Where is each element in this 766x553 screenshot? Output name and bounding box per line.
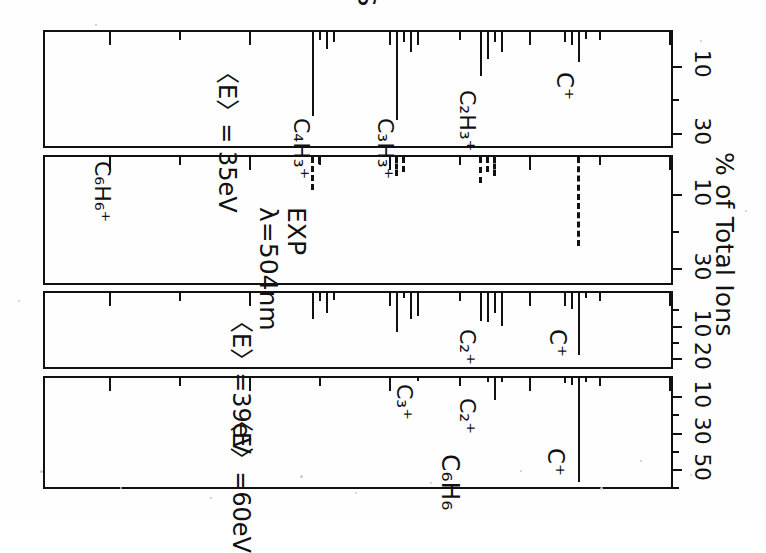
spectrum-peak [396,32,398,120]
y-axis-tick [671,396,682,398]
y-axis-tick [671,451,679,453]
scan-artifact [355,492,357,494]
spectrum-peak [312,32,314,116]
y-axis-tick [671,309,679,311]
spectrum-peak [318,157,321,164]
spectrum-peak [487,378,489,382]
mass-axis-tick-label: 60 [242,0,268,1]
y-axis-tick [671,487,679,489]
spectrum-peak [578,32,580,62]
mass-axis-tick [529,157,531,170]
spectrum-peak [417,378,419,381]
spectrum-peak [501,293,503,326]
y-axis-tick [671,414,679,416]
y-axis-tick [671,326,682,328]
y-axis-tick-label: 50 [690,453,715,481]
mass-axis-tick [599,32,601,40]
mass-axis-tick [179,293,181,301]
mass-axis-tick [249,32,251,45]
peak-label-c4h3-35ev: C₄H₃⁺ [290,118,312,179]
mass-axis-tick [459,378,461,386]
peak-label-c-plus-60ev: C⁺ [544,448,567,476]
mass-axis-tick [389,293,391,306]
mass-axis-tick-label: 20 [522,0,548,1]
mass-axis-tick-label: 40 [382,0,408,1]
mass-axis-tick [179,157,181,165]
spectrum-peak [487,293,489,322]
panel-60ev [43,376,673,489]
mass-axis-tick [249,293,251,306]
y-axis-tick-label: 10 [690,178,715,206]
scan-artifact [700,40,702,42]
mass-axis-tick [599,157,601,165]
y-axis-tick [671,194,682,196]
mass-axis-tick [109,293,111,306]
mass-axis-tick [459,157,461,165]
spectrum-peak [312,293,314,319]
peak-label-c3h3-35ev: C₃H₃⁺ [374,118,396,179]
spectrum-peak [417,32,419,45]
mass-axis-tick [179,378,181,386]
scan-artifact [210,497,212,499]
condition-label-60ev: 〈E〉=60eV [229,408,253,553]
mass-axis-tick [389,378,391,391]
spectrum-peak [564,378,566,383]
mass-axis-tick [249,157,251,170]
spectrum-peak [571,378,573,385]
spectrum-peak [494,32,496,42]
mass-axis-tick [669,293,671,306]
spectrum-peak [578,378,580,482]
scan-artifact [690,474,692,476]
spectrum-peak [479,157,482,183]
y-axis-tick [671,358,682,360]
panel-39ev [43,291,673,369]
panel-exp [43,155,673,285]
scan-artifact [40,470,43,473]
mass-axis-tick [599,293,601,301]
spectrum-peak [501,32,503,52]
y-axis-tick-label: 30 [690,117,715,145]
condition-label-35ev: 〈E〉= 35eV [215,60,239,213]
y-axis-tick [671,66,682,68]
scan-artifact [640,460,642,462]
spectrum-peak [410,293,412,319]
spectrum-peak [571,293,573,309]
peak-label-c2-39ev: C₂⁺ [456,329,478,365]
peak-label-c2-60ev: C₂⁺ [456,398,478,434]
peak-label-c-plus-35ev: C⁺ [553,72,576,100]
scan-artifact [600,487,603,490]
y-axis-tick-label: 10 [690,380,715,408]
mass-axis-tick [389,32,391,45]
mass-axis-tick-label: 80 [102,0,128,1]
scan-artifact [430,482,432,484]
panel-35ev [43,30,673,148]
mass-axis-tick [109,378,111,391]
spectrum-peak [480,32,482,76]
spectrum-peak [486,157,489,172]
spectrum-peak [333,32,335,42]
spectrum-peak [410,32,412,52]
y-axis-tick [671,342,679,344]
y-axis-tick [671,231,679,233]
y-axis-tick-label: 10 [690,310,715,338]
mass-axis-tick [599,378,601,386]
spectrum-peak [403,32,405,42]
mass-axis-tick [529,378,531,391]
spectrum-peak [564,32,566,42]
scan-artifact [95,24,97,26]
spectrum-peak [585,32,587,39]
spectrum-peak [403,293,405,298]
spectrum-peak [578,293,580,355]
scan-artifact [520,470,522,472]
spectrum-peak [501,378,503,382]
scan-artifact [120,487,122,489]
y-axis-tick-label: 30 [690,252,715,280]
spectrum-peak [564,293,566,306]
spectrum-peak [585,378,587,382]
peak-label-c3-60ev: C₃⁺ [393,384,415,420]
y-axis-tick [671,268,682,270]
spectrum-peak [480,293,482,321]
spectrum-peak [585,293,587,298]
spectrum-peak [417,293,419,316]
spectrum-peak [326,293,328,313]
